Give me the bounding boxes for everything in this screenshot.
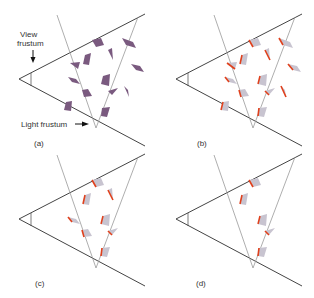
light-frustum-edge	[214, 15, 295, 128]
view-frustum-edge	[176, 14, 302, 146]
occluder	[64, 101, 72, 111]
occluder	[131, 64, 144, 72]
occluder	[122, 38, 136, 48]
view-frustum-label-line2: frustum	[17, 39, 44, 48]
light-frustum-edge	[57, 155, 138, 268]
panel-caption-c: (c)	[35, 279, 45, 288]
occluder	[124, 86, 129, 97]
figure: View frustum Light frustum (a) (b) (c) (…	[0, 0, 314, 298]
silhouette-edge	[258, 248, 259, 256]
occluder	[68, 77, 80, 84]
occluder	[92, 38, 104, 47]
occluder	[82, 89, 92, 97]
panel-caption-b: (b)	[197, 139, 207, 148]
occluder	[101, 107, 110, 117]
occluder	[101, 74, 110, 86]
occluder	[83, 53, 91, 65]
view-frustum-edge	[19, 154, 145, 286]
light-frustum-arrow-icon	[82, 122, 89, 127]
occluder	[108, 88, 118, 95]
silhouette-edge	[258, 108, 259, 116]
occluder	[108, 48, 113, 60]
silhouette-edge	[101, 248, 102, 256]
view-frustum-label-line1: View	[20, 30, 37, 39]
light-frustum-edge	[57, 15, 138, 128]
panel-caption-d: (d)	[196, 279, 206, 288]
light-frustum-edge	[214, 155, 295, 268]
silhouette-edge	[281, 86, 286, 97]
panel-caption-a: (a)	[34, 139, 44, 148]
light-frustum-label: Light frustum	[21, 120, 68, 129]
view-frustum-arrow-icon	[31, 57, 36, 63]
view-frustum-edge	[176, 154, 302, 286]
